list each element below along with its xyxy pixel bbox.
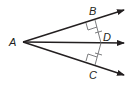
point-label-C: C (89, 70, 97, 81)
point-label-D: D (103, 32, 111, 43)
ray-AC (23, 42, 124, 75)
point-label-B: B (89, 6, 96, 17)
right-angle-mark-B (86, 23, 97, 30)
right-angle-mark-C (86, 54, 97, 61)
point-label-A: A (9, 37, 16, 48)
angle-bisector-diagram (0, 0, 132, 86)
